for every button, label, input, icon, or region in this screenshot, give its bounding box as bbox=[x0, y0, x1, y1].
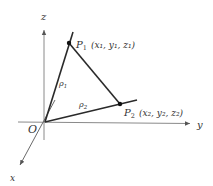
p1-label: P1(x₁, y₁, z₁) bbox=[75, 39, 136, 52]
point-p2 bbox=[118, 102, 122, 106]
z-axis-label: z bbox=[40, 11, 47, 22]
rho1-label: ρ1 bbox=[58, 79, 67, 89]
p2-label: P2(x₂, y₂, z₂) bbox=[123, 107, 184, 120]
x-axis-label: x bbox=[10, 173, 15, 183]
y-axis-label: y bbox=[196, 119, 203, 130]
diagram-canvas: z y x O ρ1 ρ2 P1(x₁, y₁, z₁) P2(x₂, bbox=[0, 0, 213, 186]
point-p1 bbox=[67, 41, 71, 45]
origin-label: O bbox=[28, 123, 37, 136]
coordinate-diagram: z y x O ρ1 ρ2 P1(x₁, y₁, z₁) P2(x₂, bbox=[0, 0, 213, 186]
vector-rho1 bbox=[45, 32, 73, 122]
x-axis bbox=[20, 100, 55, 165]
rho2-label: ρ2 bbox=[78, 100, 88, 110]
segment-p1-p2 bbox=[69, 43, 120, 104]
